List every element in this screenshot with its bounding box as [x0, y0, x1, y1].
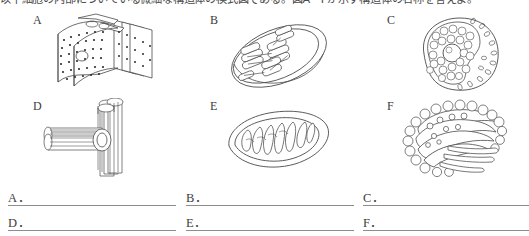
rough-endoplasmic-reticulum-icon	[40, 12, 170, 96]
figure-a: A	[0, 10, 176, 98]
question-stem: 以下細胞の内部についている微細な構造体の模式図である。図A〜Fが示す構造体の名称…	[0, 0, 529, 9]
figure-f-letter: F	[387, 99, 394, 114]
mitochondrion-icon	[217, 98, 347, 182]
figure-d: D	[0, 96, 176, 184]
answer-label-c: C．	[363, 187, 385, 206]
figure-grid: A	[0, 10, 529, 186]
answer-label-f: F．	[363, 212, 384, 231]
figure-b: B	[177, 10, 353, 98]
answer-label-a: A．	[8, 187, 31, 206]
answer-line-f	[363, 230, 529, 231]
answer-line-e	[186, 230, 354, 231]
answer-label-e: E．	[186, 212, 208, 231]
answer-blank-d[interactable]: D．	[8, 211, 176, 233]
figure-e: E	[177, 96, 353, 184]
figure-f: F	[354, 96, 529, 184]
figure-c: C	[354, 10, 529, 98]
answer-line-a	[8, 205, 176, 206]
answer-blank-a[interactable]: A．	[8, 186, 176, 208]
answer-line-b	[186, 205, 354, 206]
answer-blank-e[interactable]: E．	[186, 211, 354, 233]
answer-label-d: D．	[8, 212, 31, 231]
answer-blank-b[interactable]: B．	[186, 186, 354, 208]
golgi-apparatus-icon	[394, 98, 524, 182]
answer-blank-c[interactable]: C．	[363, 186, 529, 208]
answer-row-bottom: D． E． F．	[0, 211, 529, 236]
answer-blank-f[interactable]: F．	[363, 211, 529, 233]
nucleus-icon	[394, 12, 524, 96]
answer-label-b: B．	[186, 187, 208, 206]
answer-blanks: A． B． C． D． E． F．	[0, 186, 529, 236]
centriole-icon	[40, 98, 170, 182]
answer-row-top: A． B． C．	[0, 186, 529, 211]
answer-line-c	[363, 205, 529, 206]
answer-line-d	[8, 230, 176, 231]
chloroplast-icon	[217, 12, 347, 96]
